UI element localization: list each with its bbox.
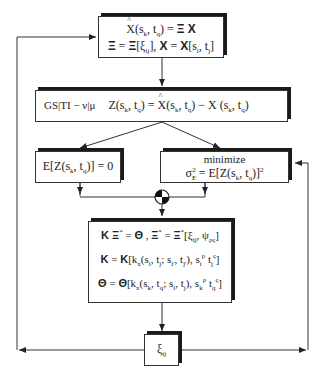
kriging-system-box: K Ξ* = Θ , Ξ* = Ξ*[ξij, ψρς] K = K[kx(si… xyxy=(88,221,232,303)
summing-junction-icon xyxy=(155,190,169,204)
estimator-box: X(sk, tq) = Ξ X Ξ = Ξ[ξij], X = X[si, tj… xyxy=(98,16,224,58)
weights-box: ξij xyxy=(144,334,179,366)
minimize-label: minimize xyxy=(161,153,288,166)
estimator-equation: X(sk, tq) = Ξ X xyxy=(99,23,223,38)
error-label: GS|TI − ν|μ xyxy=(44,99,95,111)
covariance-matrix-definition: K = K[kx(si, tj; si', tj'), siρ tjς] xyxy=(89,252,231,268)
error-box: GS|TI − ν|μ Z(sk, tq) = X(sk, tq) − X (s… xyxy=(35,90,288,122)
unbiasedness-box: E[Z(sk, tq)] = 0 xyxy=(35,151,121,183)
system-equation: K Ξ* = Θ , Ξ* = Ξ*[ξij, ψρς] xyxy=(89,228,231,244)
weights-label: ξij xyxy=(157,342,166,356)
minimize-box: minimize σE2 = E[Z(sk, tq)]2 xyxy=(160,151,289,183)
estimator-definition: Ξ = Ξ[ξij], X = X[si, tj] xyxy=(99,40,223,55)
error-equation: Z(sk, tq) = X(sk, tq) − X (sk, tq) xyxy=(108,98,248,112)
theta-vector-definition: Θ = Θ[kx(sk, tq; si, tj), skρ tqς] xyxy=(89,276,231,292)
variance-equation: σE2 = E[Z(sk, tq)]2 xyxy=(161,166,288,182)
unbiasedness-equation: E[Z(sk, tq)] = 0 xyxy=(43,159,113,173)
